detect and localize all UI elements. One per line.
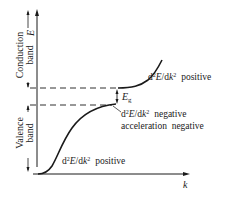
band-structure-diagram: E k Conduction band Valence band Eg xyxy=(0,0,239,199)
conduction-band-label: Conduction band xyxy=(14,32,35,79)
k-axis-label: k xyxy=(183,179,188,190)
axis-arrowhead-icon xyxy=(35,9,39,16)
conduction-label-line2: band xyxy=(24,45,35,64)
band-gap-label: Eg xyxy=(121,91,132,104)
k-axis xyxy=(33,172,190,176)
arrow-down-icon xyxy=(116,99,119,104)
arrow-down-icon xyxy=(27,83,30,88)
valence-top-leader-line xyxy=(113,106,121,112)
conduction-curvature-annotation: d2E/dk2positive xyxy=(148,72,211,82)
valence-top-curvature-annotation: d2E/dk2negative xyxy=(121,109,186,119)
valence-band-label: Valence band xyxy=(14,117,35,149)
band-gap-arrow xyxy=(116,89,119,104)
valence-bottom-curvature-annotation: d2E/dk2positive xyxy=(62,156,125,166)
arrow-up-icon xyxy=(27,105,30,110)
axis-arrowhead-icon xyxy=(183,172,190,176)
arrow-down-icon xyxy=(27,167,30,172)
acceleration-negative-annotation: acceleration negative xyxy=(121,121,204,131)
arrow-up-icon xyxy=(27,10,30,15)
energy-axis-label: E xyxy=(25,30,36,37)
valence-label-line2: band xyxy=(24,123,35,142)
arrow-up-icon xyxy=(116,89,119,94)
